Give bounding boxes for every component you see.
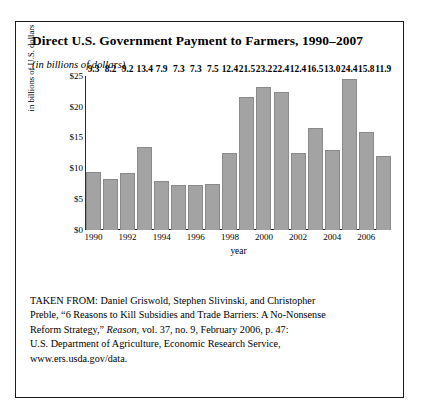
figure-inner: Direct U.S. Government Payment to Farmer… [16, 22, 403, 397]
bar: 13.0 [325, 150, 340, 230]
bar-value-label: 11.9 [375, 65, 391, 76]
source-line-3: Reform Strategy,” Reason, vol. 37, no. 9… [30, 323, 382, 337]
bar-value-label: 22.4 [273, 65, 289, 76]
bar-slot: 15.8 [359, 76, 374, 230]
bar-slot: 12.4 [222, 76, 237, 230]
bar-slot: 7.5 [205, 76, 220, 230]
bar-slot: 23.2 [256, 76, 271, 230]
bar: 7.5 [205, 184, 220, 230]
bar-slot: 11.9 [376, 76, 391, 230]
bar: 7.3 [171, 185, 186, 230]
bar-value-label: 7.3 [173, 65, 185, 76]
y-tick-label: $20 [70, 102, 84, 111]
bar: 12.4 [291, 153, 306, 229]
bar-slot: 12.4 [291, 76, 306, 230]
bar-value-label: 24.4 [341, 65, 357, 76]
bar-slot: 16.5 [308, 76, 323, 230]
y-tick-label: $25 [70, 71, 84, 80]
bar-slot: 9.2 [120, 76, 135, 230]
bar-slot: 9.3 [86, 76, 101, 230]
source-line-4: U.S. Department of Agriculture, Economic… [30, 337, 382, 351]
y-axis-ticks: $0$5$10$15$20$25 [44, 76, 83, 230]
source-line-3-post: , vol. 37, no. 9, February 2006, p. 47: [137, 324, 289, 335]
bar: 15.8 [359, 132, 374, 229]
bar-value-label: 12.4 [222, 65, 238, 76]
bar: 22.4 [274, 92, 289, 230]
bar: 21.5 [239, 97, 254, 229]
bar-value-label: 8.2 [105, 65, 117, 76]
bar: 16.5 [308, 128, 323, 230]
bar-value-label: 7.5 [207, 65, 219, 76]
bar-value-label: 9.2 [122, 65, 134, 76]
source-line-2: Preble, “6 Reasons to Kill Subsidies and… [30, 308, 382, 322]
bar-slot: 21.5 [239, 76, 254, 230]
bar-series: 9.38.29.213.47.97.37.37.512.421.523.222.… [86, 76, 391, 230]
bar-slot: 13.4 [137, 76, 152, 230]
bar-value-label: 15.8 [358, 65, 374, 76]
source-citation: TAKEN FROM: Daniel Griswold, Stephen Sli… [30, 294, 382, 366]
y-tick-label: $10 [70, 164, 84, 173]
figure-frame: Direct U.S. Government Payment to Farmer… [15, 21, 404, 398]
bar-value-label: 13.0 [324, 65, 340, 76]
bar: 8.2 [103, 179, 118, 230]
source-journal-name: Reason [107, 324, 137, 335]
bar-value-label: 21.5 [239, 65, 255, 76]
y-tick-label: $0 [74, 225, 83, 234]
bar-slot: 22.4 [274, 76, 289, 230]
bar: 9.3 [86, 172, 101, 229]
chart-plot-area: in billions of U.S. dollars $0$5$10$15$2… [30, 76, 391, 258]
source-line-3-pre: Reform Strategy,” [30, 324, 107, 335]
source-line-5: www.ers.usda.gov/data. [30, 352, 382, 366]
x-axis-label: year [86, 246, 391, 256]
y-tick-label: $15 [70, 133, 84, 142]
bar-slot: 7.3 [188, 76, 203, 230]
bar: 24.4 [342, 79, 357, 229]
bar-value-label: 16.5 [307, 65, 323, 76]
bar: 11.9 [376, 156, 391, 229]
bar-value-label: 7.3 [190, 65, 202, 76]
bar-value-label: 23.2 [256, 65, 272, 76]
bar: 12.4 [222, 153, 237, 229]
bar: 7.3 [188, 185, 203, 230]
bar: 23.2 [256, 87, 271, 230]
y-tick-label: $5 [74, 194, 83, 203]
source-line-1: TAKEN FROM: Daniel Griswold, Stephen Sli… [30, 294, 382, 308]
bar-slot: 24.4 [342, 76, 357, 230]
y-axis-label: in billions of U.S. dollars [26, 8, 36, 128]
bar-slot: 13.0 [325, 76, 340, 230]
bar-slot: 8.2 [103, 76, 118, 230]
bar: 7.9 [154, 181, 169, 230]
bar-value-label: 9.3 [88, 65, 100, 76]
page-title: Direct U.S. Government Payment to Farmer… [32, 34, 389, 49]
bar-slot: 7.9 [154, 76, 169, 230]
bar-value-label: 12.4 [290, 65, 306, 76]
bar: 13.4 [137, 147, 152, 230]
bar-value-label: 13.4 [136, 65, 152, 76]
bar-slot: 7.3 [171, 76, 186, 230]
bar-value-label: 7.9 [156, 65, 168, 76]
bar: 9.2 [120, 173, 135, 230]
